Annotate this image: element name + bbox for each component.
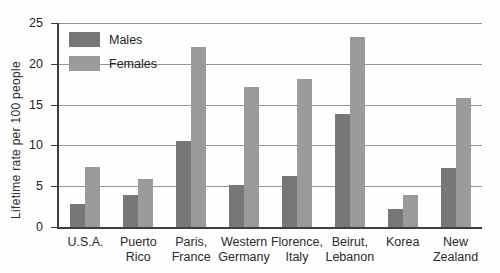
- x-label-line-1: New: [429, 235, 482, 250]
- bar-females-western-germany: [244, 87, 259, 227]
- x-label-line-2: Zealand: [429, 250, 482, 265]
- x-label-paris-france: Paris,France: [165, 235, 218, 265]
- legend: Males Females: [69, 32, 157, 71]
- y-axis: 0510152025: [0, 23, 57, 227]
- bar-males-paris-france: [176, 141, 191, 227]
- bar-females-u-s-a: [85, 167, 100, 227]
- bar-group-paris-france: [165, 23, 218, 227]
- bar-group-western-germany: [218, 23, 271, 227]
- y-tick-label-25: 25: [29, 16, 43, 30]
- y-tick-label-5: 5: [36, 179, 43, 193]
- bar-males-western-germany: [229, 185, 244, 227]
- bar-females-florence-italy: [297, 79, 312, 227]
- x-label-line-2: Lebanon: [323, 250, 376, 265]
- x-label-puerto-rico: PuertoRico: [112, 235, 165, 265]
- x-label-line-1: Korea: [376, 235, 429, 250]
- plot-area: Males Females: [57, 23, 482, 229]
- x-label-korea: Korea: [376, 235, 429, 265]
- x-label-line-1: Beirut,: [323, 235, 376, 250]
- x-label-line-1: U.S.A.: [59, 235, 112, 250]
- x-label-u-s-a: U.S.A.: [59, 235, 112, 265]
- bar-females-new-zealand: [456, 98, 471, 227]
- legend-row-females: Females: [69, 56, 157, 71]
- bar-males-beirut-lebanon: [335, 114, 350, 227]
- bar-males-new-zealand: [441, 168, 456, 227]
- y-tick-label-20: 20: [29, 57, 43, 71]
- x-label-florence-italy: Florence,Italy: [271, 235, 324, 265]
- females-legend-swatch: [69, 56, 100, 71]
- bar-males-florence-italy: [282, 176, 297, 227]
- females-legend-label: Females: [109, 57, 157, 71]
- x-axis-labels: U.S.A.PuertoRicoParis,FranceWesternGerma…: [59, 235, 482, 265]
- depression-rate-bar-chart: Lifetime rate per 100 people 0510152025 …: [0, 0, 500, 273]
- bar-males-puerto-rico: [123, 195, 138, 227]
- legend-row-males: Males: [69, 32, 157, 47]
- x-label-line-2: Rico: [112, 250, 165, 265]
- x-label-line-2: Germany: [218, 250, 271, 265]
- bar-females-beirut-lebanon: [350, 37, 365, 227]
- x-label-line-1: Florence,: [271, 235, 324, 250]
- bar-females-korea: [403, 195, 418, 227]
- x-label-beirut-lebanon: Beirut,Lebanon: [323, 235, 376, 265]
- bar-group-florence-italy: [271, 23, 324, 227]
- bar-group-korea: [376, 23, 429, 227]
- bar-females-puerto-rico: [138, 179, 153, 227]
- y-tick-label-0: 0: [36, 220, 43, 234]
- x-label-line-1: Western: [218, 235, 271, 250]
- bar-males-u-s-a: [70, 204, 85, 227]
- x-label-line-1: Paris,: [165, 235, 218, 250]
- x-label-line-2: Italy: [271, 250, 324, 265]
- males-legend-label: Males: [109, 33, 142, 47]
- y-tick-label-15: 15: [29, 98, 43, 112]
- x-label-western-germany: WesternGermany: [218, 235, 271, 265]
- y-tick-label-10: 10: [29, 138, 43, 152]
- bar-group-new-zealand: [429, 23, 482, 227]
- males-legend-swatch: [69, 32, 100, 47]
- bar-group-beirut-lebanon: [323, 23, 376, 227]
- x-label-line-2: France: [165, 250, 218, 265]
- bar-females-paris-france: [191, 47, 206, 227]
- x-label-line-1: Puerto: [112, 235, 165, 250]
- bar-males-korea: [388, 209, 403, 227]
- x-label-new-zealand: NewZealand: [429, 235, 482, 265]
